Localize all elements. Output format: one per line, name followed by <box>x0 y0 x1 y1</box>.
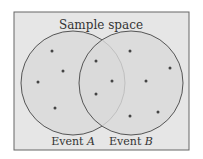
venn-diagram: Sample space Event A Event B <box>0 0 203 159</box>
event-b-circle <box>79 31 183 135</box>
outcome-dot-only-A-1 <box>51 50 54 53</box>
event-a-prefix: Event <box>51 135 87 148</box>
outcome-dot-only-A-2 <box>62 70 65 73</box>
outcome-dot-only-B-2 <box>169 67 172 70</box>
outcome-dot-only-B-3 <box>145 80 148 83</box>
outcome-dot-A-and-B-2 <box>95 93 98 96</box>
event-a-letter: A <box>86 135 95 148</box>
outcome-dot-only-B-5 <box>157 111 160 114</box>
outcome-dot-only-B-4 <box>129 115 132 118</box>
outcome-dot-only-A-4 <box>54 107 57 110</box>
event-b-label: Event B <box>109 135 153 148</box>
outcome-dot-only-A-3 <box>37 81 40 84</box>
outcome-dot-A-and-B-1 <box>95 60 98 63</box>
event-b-prefix: Event <box>109 135 145 148</box>
outcome-dot-only-B-1 <box>129 50 132 53</box>
outcome-dot-A-and-B-3 <box>111 80 114 83</box>
event-a-label: Event A <box>51 135 95 148</box>
event-b-letter: B <box>144 135 153 148</box>
sample-space-label: Sample space <box>59 18 143 32</box>
